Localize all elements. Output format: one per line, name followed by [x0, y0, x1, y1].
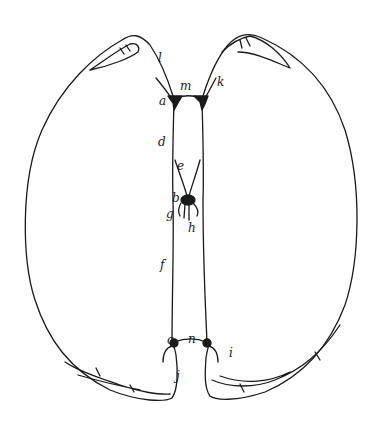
lobes-diagram [0, 0, 378, 421]
label-h: h [188, 222, 196, 234]
label-m: m [180, 80, 191, 92]
node-a [168, 96, 182, 110]
tendril-h1 [184, 204, 185, 218]
label-e: e [177, 160, 184, 172]
label-n: n [188, 333, 196, 345]
label-d: d [158, 136, 166, 148]
branch-e-right [189, 160, 200, 196]
right-lobe-outline [203, 35, 357, 400]
label-l: l [158, 52, 162, 64]
label-g: g [166, 208, 174, 220]
label-a: a [159, 95, 166, 107]
label-i: i [229, 347, 233, 359]
label-j: j [176, 370, 180, 382]
label-f: f [160, 259, 164, 271]
node-m-right [194, 96, 208, 110]
label-k: k [217, 76, 224, 88]
bridge-left [172, 100, 174, 342]
left-bottom-vein [65, 362, 170, 394]
label-b: b [172, 192, 180, 204]
bridge-right [202, 100, 207, 342]
tendril-h3 [193, 203, 198, 216]
tendril-c [163, 346, 172, 362]
tendril-i [209, 346, 218, 362]
branch-k [206, 78, 216, 96]
left-lobe-outline [25, 36, 177, 401]
label-c: c [167, 334, 174, 346]
